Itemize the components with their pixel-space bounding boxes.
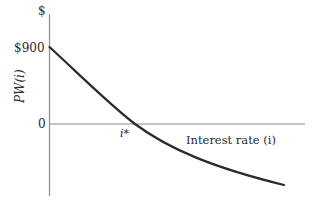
i-star-annotation: i* xyxy=(120,128,129,139)
pw-curve xyxy=(50,47,285,185)
y-tick-900: $900 xyxy=(14,42,45,54)
pw-vs-interest-rate-diagram: $ $900 0 PW(i) i* Interest rate (i) xyxy=(0,0,318,207)
y-axis-unit-label: $ xyxy=(38,5,46,17)
y-axis-label: PW(i) xyxy=(14,69,26,103)
y-tick-0: 0 xyxy=(38,118,46,130)
diagram-canvas xyxy=(0,0,318,207)
x-axis-label: Interest rate (i) xyxy=(186,135,276,147)
